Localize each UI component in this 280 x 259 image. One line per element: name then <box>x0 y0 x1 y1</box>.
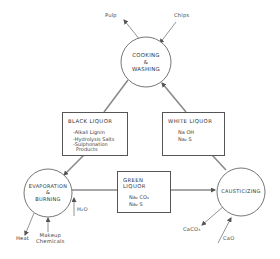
evaporation-label-line3: BURNING <box>20 196 76 202</box>
flow-white-liquor-to-cooking <box>162 83 186 112</box>
white-liquor-box: WHITE LIQUOR Na OH Na₂ S <box>162 112 225 156</box>
cooking-label-line3: WASHING <box>121 66 171 73</box>
causticizing-label: CAUSTICIZING <box>217 188 265 194</box>
black-liquor-title: BLACK LIQUOR <box>68 118 123 124</box>
flow-caco3-out <box>202 206 224 225</box>
cao-label: CaO <box>223 236 234 242</box>
flow-black-liquor-to-evaporation <box>64 155 84 175</box>
black-liquor-item: Products <box>68 147 123 152</box>
flow-heat-out <box>25 213 34 235</box>
flow-pulp-out <box>124 20 140 40</box>
diagram-canvas <box>0 0 280 259</box>
heat-label: Heat <box>16 236 29 242</box>
pulp-label: Pulp <box>105 13 117 19</box>
black-liquor-box: BLACK LIQUOR -Alkali Lignin -Hydrolysis … <box>62 112 128 156</box>
cooking-label-line1: COOKING <box>121 52 171 59</box>
water-label: H₂O <box>77 207 88 213</box>
flow-cooking-to-black-liquor <box>104 80 128 112</box>
makeup-line2: Chemicals <box>36 239 65 245</box>
node-causticizing-label: CAUSTICIZING <box>217 188 265 194</box>
node-cooking-washing-label: COOKING & WASHING <box>121 52 171 72</box>
green-liquor-item: Na₂ S <box>123 201 166 208</box>
green-liquor-title: GREEN LIQUOR <box>123 177 166 189</box>
node-evaporation-burning-label: EVAPORATION & BURNING <box>20 183 76 202</box>
white-liquor-title: WHITE LIQUOR <box>168 118 220 124</box>
green-liquor-box: GREEN LIQUOR Na₂ CO₃ Na₂ S <box>117 171 171 213</box>
white-liquor-item: Na₂ S <box>168 136 220 143</box>
makeup-chemicals-label: Makeup Chemicals <box>36 233 65 244</box>
chips-label: Chips <box>174 13 189 19</box>
flow-chips-in <box>160 22 176 43</box>
flow-causticizing-to-white-liquor <box>212 155 226 170</box>
cooking-label-line2: & <box>121 59 171 66</box>
caco3-label: CaCO₃ <box>183 227 201 233</box>
